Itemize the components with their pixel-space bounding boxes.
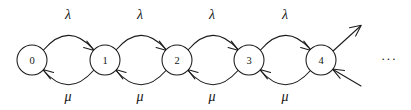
backward-arc-path: [116, 71, 166, 85]
state-label: 3: [246, 55, 251, 66]
forward-edge-1-to-2: [116, 35, 167, 50]
rate-label-mu-3-2: μ: [207, 89, 215, 104]
backward-edge-4-to-3: [260, 69, 311, 84]
state-label: 0: [29, 55, 34, 66]
forward-edge-0-to-1: [44, 35, 95, 50]
forward-edge-2-to-3: [188, 35, 239, 50]
state-node-2[interactable]: 2: [162, 45, 192, 75]
forward-arrow-head-icon: [228, 41, 239, 51]
rate-label-mu-1-0: μ: [63, 89, 71, 104]
backward-arrow-head-icon: [187, 69, 198, 79]
continuation-ellipsis: ···: [381, 51, 397, 66]
rate-label-mu-2-1: μ: [135, 89, 143, 104]
state-node-3[interactable]: 3: [234, 45, 264, 75]
backward-edge-2-to-1: [115, 69, 166, 84]
forward-arrow-head-icon: [84, 41, 95, 51]
backward-arrow-head-icon: [260, 69, 271, 79]
rate-label-lambda-0-1: λ: [64, 7, 71, 22]
rate-label-lambda-2-3: λ: [208, 7, 215, 22]
rate-label-lambda-1-2: λ: [136, 7, 143, 22]
open-incoming-arrow-head-icon: [332, 69, 344, 78]
forward-arrow-head-icon: [301, 41, 312, 51]
backward-edge-1-to-0: [43, 69, 94, 84]
forward-arrow-head-icon: [156, 41, 167, 51]
state-node-0[interactable]: 0: [17, 45, 47, 75]
markov-chain-diagram: 0 1 2 3 4 λ λ λ λ μ μ μ μ ···: [0, 0, 411, 110]
backward-arrow-head-icon: [43, 69, 54, 79]
forward-edge-3-to-4: [261, 35, 312, 50]
open-edge-incoming-to-4: [332, 69, 361, 86]
open-edge-outgoing-from-4: [333, 25, 362, 51]
state-node-1[interactable]: 1: [90, 45, 120, 75]
open-outgoing-path: [333, 26, 361, 52]
backward-edge-3-to-2: [187, 69, 238, 84]
backward-arrow-head-icon: [115, 69, 126, 79]
open-incoming-path: [333, 70, 361, 87]
backward-arc-path: [188, 71, 238, 85]
state-label: 4: [318, 55, 324, 66]
chain-svg-canvas: 0 1 2 3 4 λ λ λ λ μ μ μ μ ···: [0, 0, 411, 110]
state-node-4[interactable]: 4: [306, 45, 336, 75]
backward-arc-path: [261, 71, 311, 85]
state-label: 1: [102, 55, 107, 66]
backward-arc-path: [44, 71, 94, 85]
state-label: 2: [174, 55, 179, 66]
rate-label-mu-4-3: μ: [280, 89, 288, 104]
rate-label-lambda-3-4: λ: [281, 7, 288, 22]
